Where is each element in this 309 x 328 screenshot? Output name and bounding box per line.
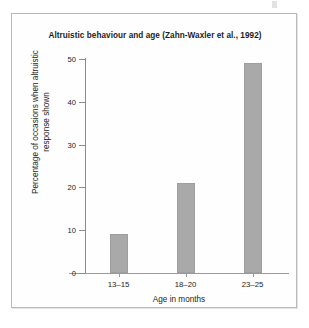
page-canvas: Altruistic behaviour and age (Zahn-Waxle… [0,0,309,328]
y-axis-line [85,58,86,274]
y-axis-tick-label: 0 [30,269,76,278]
y-axis-tick [79,145,85,146]
y-axis-title-line-2: response shown [42,28,53,216]
x-axis-tick [186,273,187,277]
y-axis-tick-label: 10 [30,226,76,235]
x-axis-tick [253,273,254,277]
y-axis-title: Percentage of occasions when altruistic … [31,28,55,216]
bar [244,63,262,273]
figure-frame: Altruistic behaviour and age (Zahn-Waxle… [11,13,297,308]
x-axis-line [69,273,289,274]
y-axis-tick [79,187,85,188]
y-axis-tick [79,230,85,231]
x-axis-category-label: 23–25 [223,280,283,289]
y-axis-tick [79,59,85,60]
y-axis-title-line-1: Percentage of occasions when altruistic [31,28,42,216]
y-axis-tick [79,102,85,103]
x-axis-title: Age in months [69,295,289,304]
page-artifact-mark [272,1,277,8]
x-axis-category-label: 18–20 [156,280,216,289]
bar [110,234,128,273]
y-axis-tick [79,273,85,274]
bar [177,183,195,273]
x-axis-tick [119,273,120,277]
x-axis-category-label: 13–15 [89,280,149,289]
